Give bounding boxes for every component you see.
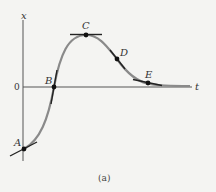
origin-label: 0: [14, 82, 20, 92]
position-curve: [24, 35, 190, 149]
point-d: [115, 57, 120, 62]
label-d: D: [119, 47, 128, 58]
figure-caption: (a): [98, 173, 110, 183]
label-a: A: [13, 137, 21, 148]
label-e: E: [144, 69, 153, 80]
label-c: C: [82, 20, 90, 31]
label-b: B: [44, 75, 52, 86]
y-axis-label: x: [21, 10, 27, 21]
x-axis-label: t: [195, 81, 200, 92]
point-a: [22, 147, 27, 152]
point-c: [84, 33, 89, 38]
position-time-diagram: x t 0 A B C D E (a): [0, 0, 216, 192]
point-e: [146, 81, 151, 86]
